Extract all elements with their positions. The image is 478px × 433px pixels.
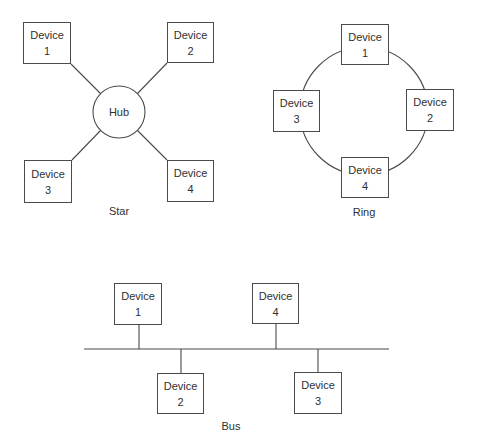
- device-label: Device: [413, 94, 447, 110]
- device-number: 2: [187, 43, 193, 59]
- star-link-device-2: [137, 63, 167, 94]
- star-caption: Star: [109, 205, 129, 217]
- device-number: 1: [135, 304, 141, 320]
- device-label: Device: [280, 95, 314, 111]
- device-number: 3: [293, 111, 299, 127]
- bus-device-1: Device 1: [114, 283, 162, 325]
- star-device-2: Device 2: [167, 22, 214, 63]
- bus-device-4: Device 4: [252, 283, 299, 324]
- bus-device-3: Device 3: [294, 372, 342, 414]
- star-hub-label: Hub: [109, 106, 129, 118]
- ring-device-4: Device 4: [341, 157, 389, 198]
- ring-device-2: Device 2: [406, 89, 454, 131]
- device-label: Device: [164, 378, 198, 394]
- device-label: Device: [31, 166, 65, 182]
- ring-caption: Ring: [353, 206, 376, 218]
- device-number: 3: [45, 182, 51, 198]
- star-device-4: Device 4: [167, 160, 214, 202]
- star-device-3: Device 3: [24, 160, 72, 203]
- device-number: 1: [362, 45, 368, 61]
- device-label: Device: [348, 162, 382, 178]
- star-device-1: Device 1: [23, 22, 71, 64]
- bus-caption: Bus: [222, 420, 241, 432]
- bus-device-2: Device 2: [157, 373, 204, 414]
- device-number: 4: [187, 181, 193, 197]
- device-label: Device: [30, 27, 64, 43]
- device-label: Device: [121, 288, 155, 304]
- star-link-device-4: [137, 130, 167, 160]
- device-number: 2: [177, 394, 183, 410]
- device-number: 1: [44, 43, 50, 59]
- ring-device-3: Device 3: [273, 90, 320, 132]
- star-link-device-3: [72, 130, 101, 160]
- device-number: 4: [362, 178, 368, 194]
- bus-links: [84, 324, 389, 373]
- device-label: Device: [301, 377, 335, 393]
- ring-device-1: Device 1: [341, 24, 389, 65]
- device-label: Device: [174, 165, 208, 181]
- star-link-device-1: [71, 64, 101, 94]
- device-label: Device: [348, 29, 382, 45]
- diagram-connections: [0, 0, 478, 433]
- device-number: 4: [272, 304, 278, 320]
- device-label: Device: [259, 288, 293, 304]
- device-number: 2: [427, 110, 433, 126]
- device-label: Device: [174, 27, 208, 43]
- device-number: 3: [315, 393, 321, 409]
